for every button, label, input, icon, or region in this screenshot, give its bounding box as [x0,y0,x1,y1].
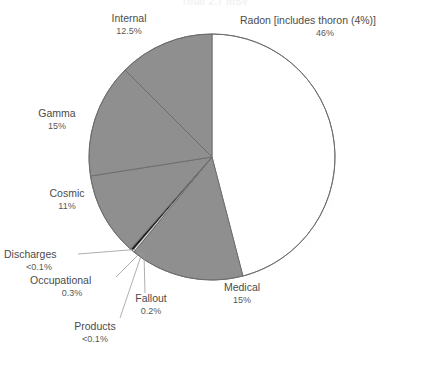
slice-label-medical: Medical 15% [200,281,284,306]
slice-label-medical-value: 15% [200,294,284,307]
slice-label-fallout-value: 0.2% [122,305,180,318]
slice-label-gamma-name: Gamma [18,107,96,120]
slice-label-internal-value: 12.5% [86,25,172,38]
slice-label-occupational-value: 0.3% [30,287,114,300]
slice-label-products-name: Products [62,320,128,333]
slice-label-gamma: Gamma 15% [18,107,96,132]
slice-label-radon-name: Radon [includes thoron (4%)] [240,14,429,27]
slice-label-products-value: <0.1% [62,333,128,346]
pie-chart-figure: Total 2.7 mSv Internal 12.5% Radon [inc [0,0,429,366]
pie-slice-group [89,34,335,280]
slice-label-radon: Radon [includes thoron (4%)] 46% [240,14,429,39]
slice-label-medical-name: Medical [200,281,284,294]
slice-label-occupational-name: Occupational [30,274,120,287]
slice-label-products: Products <0.1% [62,320,128,345]
slice-label-internal-name: Internal [86,12,172,25]
pie-chart-svg [0,0,429,366]
slice-label-fallout: Fallout 0.2% [122,292,180,317]
slice-label-gamma-value: 15% [18,120,96,133]
leader-line-discharges [78,249,141,254]
slice-label-discharges-value: <0.1% [4,261,74,274]
slice-label-fallout-name: Fallout [122,292,180,305]
slice-label-cosmic: Cosmic 11% [30,187,104,212]
slice-label-internal: Internal 12.5% [86,12,172,37]
slice-label-cosmic-name: Cosmic [30,187,104,200]
slice-label-radon-value: 46% [240,27,410,40]
slice-label-discharges-name: Discharges [4,248,82,261]
slice-label-discharges: Discharges <0.1% [4,248,82,273]
slice-label-cosmic-value: 11% [30,200,104,213]
slice-label-occupational: Occupational 0.3% [30,274,120,299]
